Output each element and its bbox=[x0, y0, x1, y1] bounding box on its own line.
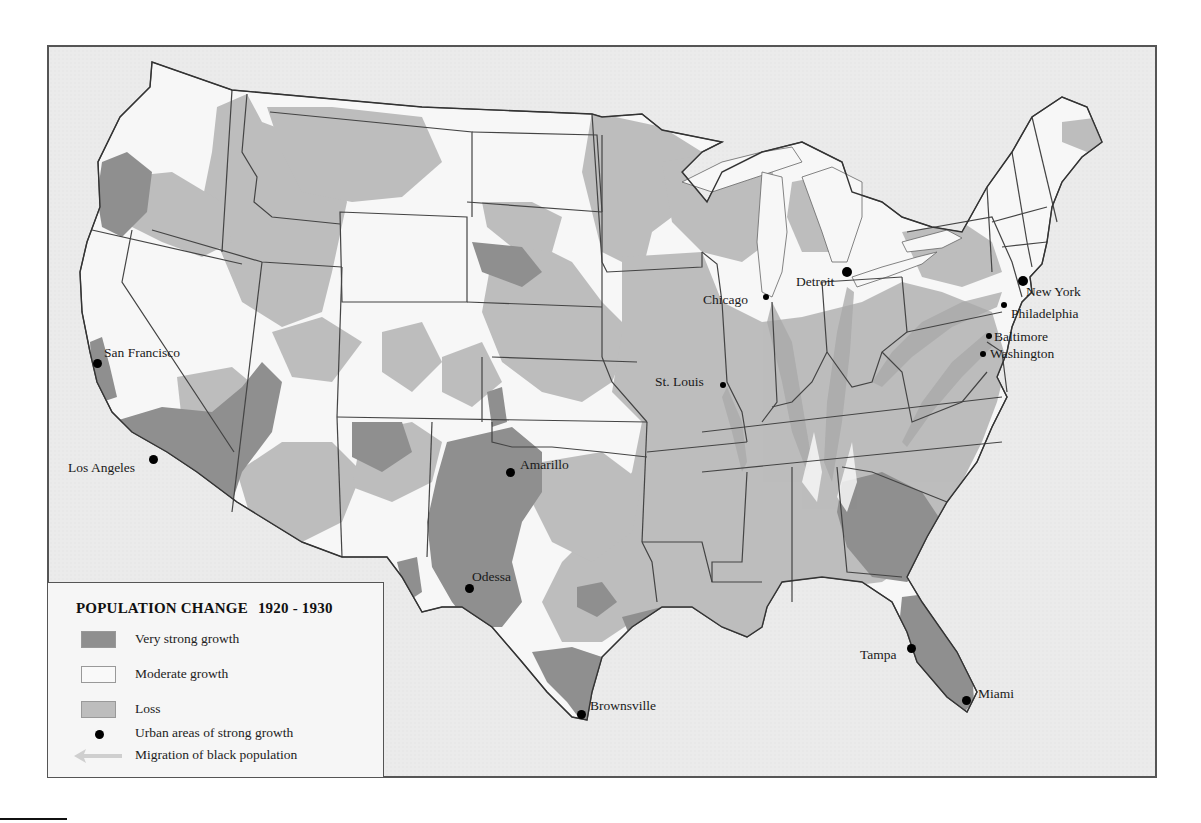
legend-item-migration: Migration of black population bbox=[48, 744, 383, 764]
urban-growth-dot bbox=[986, 333, 992, 339]
city-label: Odessa bbox=[472, 570, 511, 584]
urban-growth-dot bbox=[149, 455, 158, 464]
legend-item-very-strong-growth: Very strong growth bbox=[48, 628, 383, 648]
urban-growth-dot bbox=[1001, 302, 1007, 308]
urban-growth-dot bbox=[842, 267, 852, 277]
city-label: Detroit bbox=[796, 275, 834, 289]
urban-dot-icon bbox=[95, 730, 104, 739]
legend-item-loss: Loss bbox=[48, 698, 383, 718]
city-label: San Francisco bbox=[104, 346, 180, 360]
moderate-growth-swatch bbox=[81, 666, 116, 683]
city-label: Miami bbox=[978, 687, 1014, 701]
legend-title-text: POPULATION CHANGE bbox=[76, 600, 248, 616]
city-label: Brownsville bbox=[590, 699, 656, 713]
legend-item-moderate-growth: Moderate growth bbox=[48, 663, 383, 683]
city-label: Baltimore bbox=[994, 330, 1048, 344]
city-label: Philadelphia bbox=[1011, 307, 1079, 321]
city-label: Los Angeles bbox=[68, 461, 135, 475]
city-label: Amarillo bbox=[520, 458, 569, 472]
urban-growth-dot bbox=[980, 351, 986, 357]
very-strong-growth-swatch bbox=[81, 631, 116, 648]
urban-growth-dot bbox=[577, 710, 586, 719]
city-label: Tampa bbox=[860, 648, 897, 662]
migration-arrow-icon bbox=[72, 748, 124, 764]
legend-label: Migration of black population bbox=[135, 747, 297, 763]
legend-label: Very strong growth bbox=[135, 631, 239, 647]
legend-title: POPULATION CHANGE1920 - 1930 bbox=[76, 600, 333, 617]
urban-growth-dot bbox=[465, 584, 474, 593]
city-label: New York bbox=[1026, 285, 1081, 299]
urban-growth-dot bbox=[907, 644, 916, 653]
city-label: Chicago bbox=[703, 293, 748, 307]
city-label: St. Louis bbox=[655, 375, 704, 389]
urban-growth-dot bbox=[93, 359, 102, 368]
map-legend: POPULATION CHANGE1920 - 1930 Very strong… bbox=[47, 582, 384, 778]
legend-years: 1920 - 1930 bbox=[258, 600, 333, 616]
urban-growth-dot bbox=[720, 382, 726, 388]
legend-item-urban-growth: Urban areas of strong growth bbox=[48, 722, 383, 742]
legend-label: Loss bbox=[135, 701, 161, 717]
legend-label: Moderate growth bbox=[135, 666, 228, 682]
legend-label: Urban areas of strong growth bbox=[135, 725, 293, 741]
footer-rule bbox=[0, 818, 67, 820]
loss-swatch bbox=[81, 701, 116, 718]
city-label: Washington bbox=[990, 347, 1054, 361]
urban-growth-dot bbox=[962, 696, 971, 705]
urban-growth-dot bbox=[506, 468, 515, 477]
urban-growth-dot bbox=[763, 294, 769, 300]
